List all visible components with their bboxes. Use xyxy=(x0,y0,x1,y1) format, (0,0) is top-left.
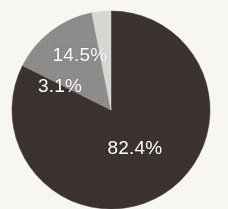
slice-label-minor: 3.1% xyxy=(38,75,82,97)
slice-label-middle: 14.5% xyxy=(53,44,108,66)
pie-slice-group xyxy=(12,11,210,209)
pie-chart-figure: 82.4% 14.5% 3.1% xyxy=(0,0,228,209)
pie-chart-svg xyxy=(0,0,228,209)
slice-label-major: 82.4% xyxy=(108,137,163,159)
